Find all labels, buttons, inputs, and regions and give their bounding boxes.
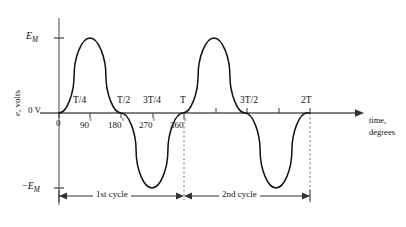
em-subscript: M — [32, 36, 38, 44]
x-tick-label-270deg: 270° — [139, 119, 155, 130]
x-tick-label-t-one: T — [180, 96, 186, 106]
x-tick-label-0deg: 0 — [56, 119, 61, 128]
deg360-symbol: ° — [184, 118, 187, 126]
deg270-symbol: ° — [153, 118, 156, 126]
x-axis-title-line2: degrees — [369, 128, 395, 137]
deg360-value: 360 — [170, 120, 184, 130]
x-tick-label-180deg: 180° — [108, 119, 124, 130]
x-tick-label-360deg: 360° — [170, 119, 186, 130]
y-tick-label-zero: 0 V — [28, 106, 41, 115]
x-tick-label-t-half: T/2 — [117, 96, 130, 106]
plot-canvas — [0, 0, 406, 227]
x-axis-arrow-icon — [355, 109, 364, 117]
annotation-second-cycle: 2nd cycle — [219, 190, 260, 199]
deg270-value: 270 — [139, 120, 153, 130]
deg90-symbol: ° — [89, 118, 92, 126]
x-tick-label-t-quarter: T/4 — [73, 96, 86, 106]
x-tick-label-90deg: 90° — [80, 119, 92, 130]
deg180-value: 180 — [108, 120, 122, 130]
x-tick-label-t-three-quarter: 3T/4 — [143, 96, 161, 106]
sine-wave-figure: e, volts EM −EM 0 V T/4 T/2 3T/4 T 3T/2 … — [0, 0, 406, 227]
y-tick-label-min: −EM — [22, 181, 40, 194]
deg90-value: 90 — [80, 120, 89, 130]
x-tick-label-t-three-half: 3T/2 — [240, 96, 258, 106]
y-tick-label-max: EM — [26, 31, 38, 44]
deg180-symbol: ° — [122, 118, 125, 126]
neg-em-subscript: M — [34, 186, 40, 194]
y-axis-title-units: , volts — [12, 90, 22, 112]
annotation-first-cycle: 1st cycle — [93, 190, 131, 199]
x-tick-label-t-two: 2T — [301, 96, 312, 106]
x-axis-title-line1: time, — [369, 116, 386, 125]
y-axis-title-symbol: e — [12, 112, 22, 116]
y-axis-title: e, volts — [12, 73, 22, 133]
